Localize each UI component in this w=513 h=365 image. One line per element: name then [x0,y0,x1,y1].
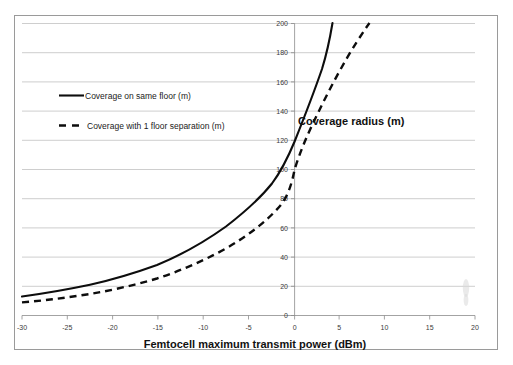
x-tick-label: -25 [62,324,72,331]
x-tick-label: -20 [108,324,118,331]
x-tick-labels: -30 -25 -20 -15 -10 -5 0 5 10 15 20 [17,324,479,331]
chart-figure: 200 180 160 140 120 100 80 60 40 20 0 -3… [0,0,513,365]
y-tick-label: 0 [284,312,288,319]
y-tick-label: 20 [280,283,288,290]
x-tickmarks [22,316,475,320]
x-tick-label: 20 [471,324,479,331]
x-tick-label: 0 [293,324,297,331]
legend-label-one-floor: Coverage with 1 floor separation (m) [87,121,225,131]
scan-artifact [463,279,469,306]
series-line-one-floor [22,23,370,302]
x-tick-label: 5 [337,324,341,331]
y-tick-label: 40 [280,254,288,261]
coverage-radius-annotation: Coverage radius (m) [298,115,405,127]
x-axis-title: Femtocell maximum transmit power (dBm) [144,338,367,350]
x-tick-label: 10 [381,324,389,331]
x-tick-label: 15 [426,324,434,331]
legend-entry-same-floor: Coverage on same floor (m) [59,91,191,101]
legend: Coverage on same floor (m) Coverage with… [59,91,225,131]
x-tick-label: -15 [153,324,163,331]
x-tick-label: -10 [198,324,208,331]
chart-canvas: 200 180 160 140 120 100 80 60 40 20 0 -3… [0,0,513,365]
x-tick-label: -5 [245,324,251,331]
y-tick-label: 140 [276,108,288,115]
legend-label-same-floor: Coverage on same floor (m) [85,91,191,101]
y-tick-label: 180 [276,49,288,56]
y-tick-label: 160 [276,79,288,86]
y-tickmarks [291,24,295,316]
y-tick-label: 120 [276,137,288,144]
x-tick-label: -30 [17,324,27,331]
y-tick-label: 200 [276,20,288,27]
y-tick-labels: 200 180 160 140 120 100 80 60 40 20 0 [276,20,288,319]
horizontal-gridlines [22,24,475,287]
y-tick-label: 60 [280,225,288,232]
legend-entry-one-floor: Coverage with 1 floor separation (m) [59,121,225,131]
